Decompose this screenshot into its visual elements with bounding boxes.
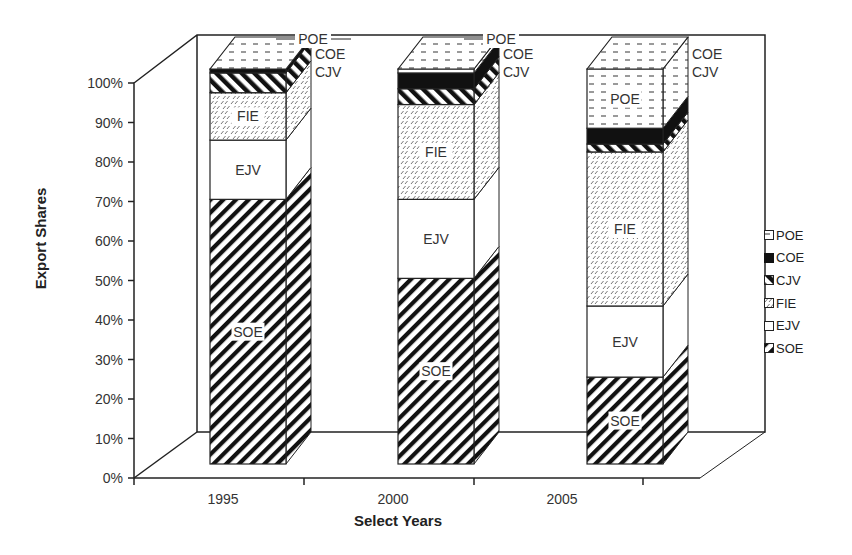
segment-label: SOE [610, 413, 640, 429]
segment-label: FIE [614, 221, 636, 237]
x-axis-title: Select Years [318, 512, 478, 529]
y-tick-label: 30% [95, 352, 123, 368]
y-tick-label: 10% [95, 431, 123, 447]
x-tick-label: 2005 [546, 491, 577, 507]
legend-item-fie: FIE [764, 292, 804, 315]
segment-label: SOE [421, 363, 451, 379]
ejv-swatch-icon [764, 321, 774, 331]
segment-side-soe [474, 246, 499, 464]
y-tick-label: 100% [87, 75, 123, 91]
segment-coe [587, 128, 663, 144]
segment-label: EJV [612, 334, 638, 350]
floor-right-edge [700, 432, 765, 478]
coe-swatch-icon [764, 253, 774, 263]
y-tick-label: 70% [95, 194, 123, 210]
legend-item-poe: POE [764, 224, 804, 247]
segment-label: POE [610, 91, 640, 107]
y-axis-ticks: 0%10%20%30%40%50%60%70%80%90%100% [87, 75, 134, 486]
segment-cjv [398, 89, 474, 105]
callout-label: CJV [692, 64, 719, 80]
y-tick-label: 40% [95, 312, 123, 328]
callout-label: POE [298, 31, 328, 47]
callout-label: COE [503, 46, 533, 62]
legend-item-soe: SOE [764, 337, 804, 360]
segment-cjv [587, 144, 663, 152]
floor-left-edge [134, 432, 197, 478]
y-tick-label: 60% [95, 233, 123, 249]
legend-item-ejv: EJV [764, 314, 804, 337]
legend-item-coe: COE [764, 247, 804, 270]
segment-side-soe [286, 167, 311, 464]
y-tick-label: 90% [95, 115, 123, 131]
callout-label: CJV [503, 64, 530, 80]
y-tick-label: 50% [95, 273, 123, 289]
poe-swatch-icon [764, 230, 774, 240]
callout-label: COE [315, 46, 345, 62]
bar-2000: SOEEJVFIECOECJVPOE [398, 30, 533, 464]
callout-label: POE [486, 31, 516, 47]
cjv-swatch-icon [764, 275, 774, 285]
stacked-bar-chart-3d: 0%10%20%30%40%50%60%70%80%90%100% 199520… [0, 0, 852, 555]
legend: POE COE CJV FIE EJV SOE [764, 224, 804, 360]
bar-1995: SOEEJVFIECOECJVPOE [210, 30, 351, 464]
fie-swatch-icon [764, 298, 774, 308]
y-tick-label: 0% [103, 470, 123, 486]
callout-label: COE [692, 46, 722, 62]
y-tick-label: 80% [95, 154, 123, 170]
soe-swatch-icon [764, 343, 774, 353]
callout-label: CJV [315, 64, 342, 80]
bar-2005: SOEEJVFIEPOECOECJV [587, 37, 722, 464]
y-tick-label: 20% [95, 391, 123, 407]
legend-item-cjv: CJV [764, 269, 804, 292]
x-tick-label: 1995 [207, 491, 238, 507]
segment-label: EJV [235, 162, 261, 178]
bars: SOEEJVFIECOECJVPOESOEEJVFIECOECJVPOESOEE… [210, 30, 722, 464]
y-axis-title: Export Shares [32, 184, 49, 294]
segment-cjv [210, 73, 286, 93]
segment-coe [398, 73, 474, 89]
x-tick-label: 2000 [377, 491, 408, 507]
segment-label: FIE [237, 108, 259, 124]
segment-label: EJV [423, 231, 449, 247]
segment-label: FIE [425, 144, 447, 160]
x-axis-ticks: 199520002005 [134, 478, 643, 507]
segment-label: SOE [233, 324, 263, 340]
